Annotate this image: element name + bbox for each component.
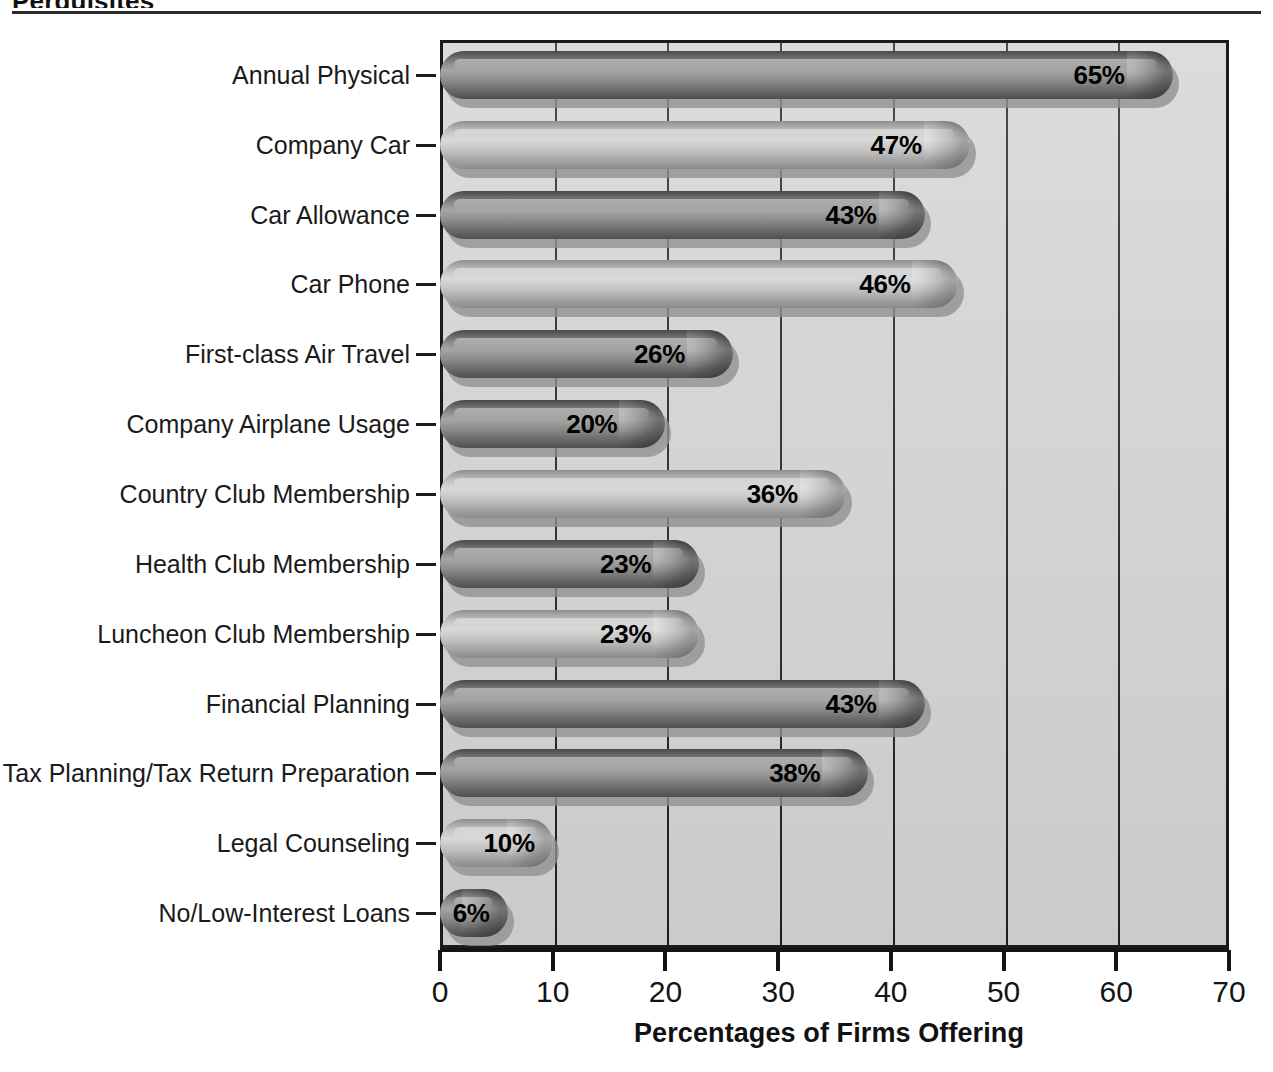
bar-end-cap [1127,51,1173,99]
x-axis-tick [438,950,442,971]
x-axis-tick [889,950,893,971]
x-axis-tick-label: 30 [743,975,813,1009]
x-axis-tick-label: 40 [856,975,926,1009]
y-axis-tick [416,842,436,845]
bar-value-label: 65% [440,51,1125,99]
y-axis-tick [416,772,436,775]
x-axis-title-text: Percentages of Firms Offering [249,1018,1024,1048]
bar-value-label: 36% [440,470,798,518]
x-axis-tick [663,950,667,971]
y-axis-label: Luncheon Club Membership [0,619,410,649]
y-axis-tick [416,353,436,356]
y-axis-label: Financial Planning [0,689,410,719]
y-axis-tick [416,423,436,426]
x-axis-tick-label: 50 [969,975,1039,1009]
bar-end-cap [800,470,846,518]
bar-value-label: 38% [440,749,820,797]
y-axis-tick [416,493,436,496]
y-axis-label: No/Low-Interest Loans [0,898,410,928]
y-axis-label: Tax Planning/Tax Return Preparation [0,758,410,788]
x-axis-tick [1114,950,1118,971]
gridline [893,43,895,945]
x-axis-line [440,948,1229,952]
y-axis-tick [416,214,436,217]
bar-value-label: 46% [440,260,910,308]
y-axis-tick [416,912,436,915]
y-axis-label: Country Club Membership [0,479,410,509]
bar-value-label: 6% [440,889,490,937]
y-axis-label: Car Phone [0,269,410,299]
bar-end-cap [879,191,925,239]
y-axis-tick [416,703,436,706]
y-axis-tick [416,74,436,77]
bar-end-cap [653,610,699,658]
bar-value-label: 43% [440,191,877,239]
y-axis-label: First-class Air Travel [0,339,410,369]
x-axis-tick [1002,950,1006,971]
gridline [1118,43,1120,945]
bar-value-label: 47% [440,121,922,169]
bar-end-cap [879,680,925,728]
y-axis-label: Car Allowance [0,200,410,230]
x-axis-tick [1227,950,1231,971]
bar-value-label: 10% [440,819,535,867]
x-axis-tick-label: 60 [1081,975,1151,1009]
y-axis-label: Health Club Membership [0,549,410,579]
y-axis-tick [416,633,436,636]
x-axis-title: Percentages of Firms Offering [0,1018,1273,1049]
bar-end-cap [924,121,970,169]
y-axis-tick [416,144,436,147]
bar-value-label: 20% [440,400,617,448]
x-axis-tick-label: 0 [405,975,475,1009]
bar-value-label: 43% [440,680,877,728]
bar-value-label: 23% [440,610,651,658]
gridline [1006,43,1008,945]
x-axis-tick-label: 20 [630,975,700,1009]
bar-chart-figure: 65%Annual Physical47%Company Car43%Car A… [0,0,1273,1072]
y-axis-tick [416,563,436,566]
bar-value-label: 23% [440,540,651,588]
x-axis-tick [776,950,780,971]
x-axis-tick-label: 70 [1194,975,1264,1009]
y-axis-label: Annual Physical [0,60,410,90]
y-axis-label: Company Airplane Usage [0,409,410,439]
bar-value-label: 26% [440,330,685,378]
y-axis-label: Company Car [0,130,410,160]
x-axis-tick-label: 10 [518,975,588,1009]
y-axis-tick [416,283,436,286]
y-axis-label: Legal Counseling [0,828,410,858]
x-axis-tick [551,950,555,971]
